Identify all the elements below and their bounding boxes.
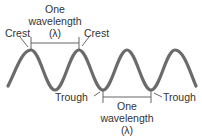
wave-diagram: Crest Crest One wavelength (λ) Trough Tr… <box>0 0 202 138</box>
crest-label-left: Crest <box>5 27 30 39</box>
trough-label-right: Trough <box>163 91 196 103</box>
wave-curve <box>8 50 196 90</box>
trough-label-left: Trough <box>55 91 88 103</box>
crest-label-right: Crest <box>84 27 109 39</box>
bottom-wavelength-line3: (λ) <box>121 124 133 136</box>
bottom-wavelength-line1: One <box>117 100 137 112</box>
top-wavelength-line1: One <box>45 3 65 15</box>
bottom-wavelength-line2: wavelength <box>99 112 153 124</box>
top-wavelength-line2: wavelength <box>27 15 81 27</box>
top-wavelength-line3: (λ) <box>49 27 61 39</box>
